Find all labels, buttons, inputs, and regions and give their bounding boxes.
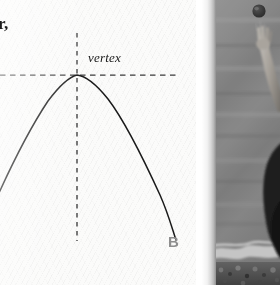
- beach-throw-photograph: [216, 0, 280, 285]
- parabola-curve: [0, 75, 176, 240]
- cut-off-body-text: r,: [0, 15, 8, 32]
- parabola-plot: [0, 0, 196, 285]
- point-b-label: B: [168, 233, 179, 250]
- photo-grain: [216, 0, 280, 285]
- figure-page: r, vertex B: [0, 0, 280, 285]
- vertex-label: vertex: [88, 50, 121, 66]
- panel-gutter: [196, 0, 216, 285]
- photograph-content: [216, 0, 280, 285]
- parabola-diagram-panel: r, vertex B: [0, 0, 196, 285]
